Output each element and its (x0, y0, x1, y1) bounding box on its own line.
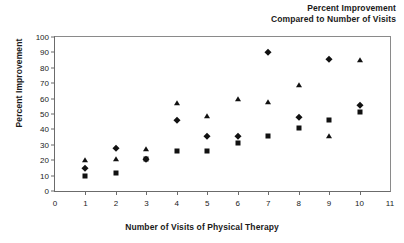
data-point-square (205, 148, 210, 153)
chart-title-line-2: Compared to Number of Visits (271, 14, 396, 25)
data-point-triangle (143, 147, 149, 152)
data-point-square (327, 118, 332, 123)
x-axis-tick-mark (299, 191, 300, 195)
x-axis-tick-mark (146, 191, 147, 195)
y-axis-tick-mark (51, 83, 55, 84)
data-point-square (235, 141, 240, 146)
data-point-triangle (357, 57, 363, 62)
data-point-diamond (174, 117, 180, 123)
plot-area: 010203040506070809010001234567891011 (54, 36, 391, 192)
x-axis-tick-label: 6 (235, 199, 239, 208)
x-axis-tick-mark (177, 191, 178, 195)
chart-title: Percent Improvement Compared to Number o… (271, 3, 396, 26)
data-point-diamond (82, 165, 88, 171)
data-point-diamond (295, 114, 301, 120)
x-axis-tick-label: 1 (83, 199, 87, 208)
x-axis-label: Number of Visits of Physical Therapy (0, 222, 404, 232)
x-axis-tick-label: 11 (386, 199, 394, 208)
data-point-triangle (235, 96, 241, 101)
data-point-triangle (296, 82, 302, 87)
x-axis-tick-mark (85, 191, 86, 195)
x-axis-tick-label: 3 (144, 199, 148, 208)
y-axis-tick-mark (51, 98, 55, 99)
x-axis-tick-label: 4 (175, 199, 179, 208)
data-point-square (357, 110, 362, 115)
data-point-triangle (174, 100, 180, 105)
y-axis-tick-mark (51, 144, 55, 145)
x-axis-tick-mark (329, 191, 330, 195)
x-axis-tick-mark (268, 191, 269, 195)
x-axis-tick-label: 2 (114, 199, 118, 208)
y-axis-tick-mark (51, 191, 55, 192)
scatter-chart: Percent Improvement Compared to Number o… (0, 0, 404, 243)
x-axis-tick-mark (207, 191, 208, 195)
y-axis-tick-mark (51, 37, 55, 38)
data-point-diamond (204, 132, 210, 138)
x-axis-tick-label: 10 (355, 199, 364, 208)
data-point-diamond (234, 132, 240, 138)
data-point-square (296, 125, 301, 130)
y-axis-tick-mark (51, 52, 55, 53)
x-axis-tick-label: 5 (205, 199, 209, 208)
x-axis-tick-label: 7 (266, 199, 270, 208)
data-point-triangle (326, 133, 332, 138)
data-point-triangle (265, 99, 271, 104)
x-axis-tick-mark (116, 191, 117, 195)
x-axis-tick-label: 9 (327, 199, 331, 208)
data-point-diamond (356, 102, 362, 108)
data-point-square (266, 133, 271, 138)
data-point-diamond (113, 145, 119, 151)
data-point-square (83, 173, 88, 178)
x-axis-tick-label: 0 (53, 199, 57, 208)
x-axis-tick-mark (238, 191, 239, 195)
data-point-diamond (265, 49, 271, 55)
y-axis-tick-mark (51, 160, 55, 161)
x-axis-tick-mark (360, 191, 361, 195)
y-axis-tick-mark (51, 67, 55, 68)
chart-title-line-1: Percent Improvement (271, 3, 396, 14)
y-axis-tick-mark (51, 175, 55, 176)
data-point-square (174, 148, 179, 153)
data-point-triangle (82, 157, 88, 162)
data-point-triangle (113, 156, 119, 161)
y-axis-tick-mark (51, 114, 55, 115)
data-point-triangle (204, 113, 210, 118)
data-point-square (113, 170, 118, 175)
x-axis-tick-label: 8 (296, 199, 300, 208)
y-axis-tick-mark (51, 129, 55, 130)
data-point-diamond (326, 55, 332, 61)
